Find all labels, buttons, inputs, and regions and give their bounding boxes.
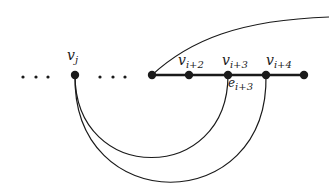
node-vj [71, 71, 79, 79]
label-vj: vj [67, 47, 78, 65]
label-vi3: vi+3 [222, 52, 248, 70]
ellipsis-middle [98, 75, 126, 78]
node-vi5 [300, 71, 308, 79]
node-vi2 [185, 71, 193, 79]
diagram-canvas: vj vi+2 vi+3 vi+4 ei+3 [0, 0, 329, 190]
node-vi1 [148, 71, 156, 79]
ellipsis-left [21, 75, 49, 78]
node-vi4 [262, 71, 270, 79]
graph-diagram: vj vi+2 vi+3 vi+4 ei+3 [0, 0, 329, 190]
edge-arc-vj-vi3 [75, 75, 228, 158]
label-vi4: vi+4 [266, 52, 292, 70]
label-edge-ei3: ei+3 [228, 76, 253, 92]
label-vi2: vi+2 [178, 52, 204, 70]
